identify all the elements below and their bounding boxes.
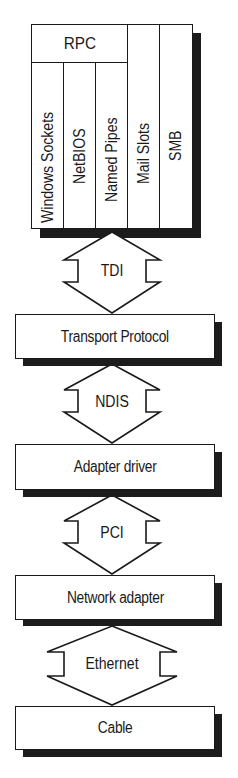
adapter-driver-box: Adapter driver (15, 444, 215, 490)
pci-label: PCI (86, 524, 139, 542)
ndis-label: NDIS (86, 393, 139, 411)
transport-protocol-label: Transport Protocol (61, 328, 169, 346)
cable-box: Cable (15, 706, 215, 750)
network-adapter-label: Network adapter (66, 589, 163, 607)
tdi-label: TDI (86, 262, 139, 280)
network-stack-diagram: RPC Windows Sockets NetBIOS Named Pipes … (0, 0, 238, 778)
adapter-driver-label: Adapter driver (74, 458, 157, 476)
ethernet-label: Ethernet (72, 655, 151, 673)
cable-label: Cable (98, 719, 133, 737)
transport-protocol-box: Transport Protocol (15, 314, 215, 359)
network-adapter-box: Network adapter (15, 575, 215, 620)
